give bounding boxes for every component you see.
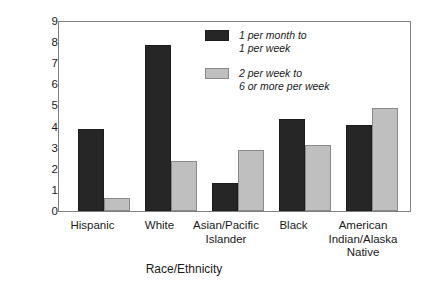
legend-item-series1: 1 per month to 1 per week bbox=[205, 29, 365, 54]
y-tick-label-9: 9 bbox=[12, 16, 58, 28]
legend-swatch-series2 bbox=[205, 68, 229, 79]
bar-white-series2 bbox=[171, 161, 197, 211]
plot-area: 1 per month to 1 per week 2 per week to … bbox=[58, 21, 411, 212]
x-axis-title-wrapper: Race/Ethnicity bbox=[0, 262, 424, 276]
y-tick-label-6: 6 bbox=[12, 79, 58, 91]
bar-white-series1 bbox=[145, 45, 171, 212]
legend-swatch-series1 bbox=[205, 30, 229, 41]
bar-hispanic-series1 bbox=[78, 129, 104, 211]
bar-asian-pacific-islander-series1 bbox=[212, 183, 238, 211]
y-tick-label-1: 1 bbox=[12, 185, 58, 197]
y-tick-label-2: 2 bbox=[12, 164, 58, 176]
y-tick-label-3: 3 bbox=[12, 143, 58, 155]
legend-label-series2: 2 per week to 6 or more per week bbox=[239, 67, 329, 92]
y-tick-label-8: 8 bbox=[12, 37, 58, 49]
x-axis-title: Race/Ethnicity bbox=[146, 262, 223, 276]
y-tick-label-7: 7 bbox=[12, 58, 58, 70]
y-tick-label-5: 5 bbox=[12, 100, 58, 112]
bar-american-indian-alaska-native-series2 bbox=[372, 108, 398, 211]
bar-chart-figure: Weighted Percentage 9 8 7 6 5 4 3 2 1 0 bbox=[0, 0, 424, 290]
legend-label-series1: 1 per month to 1 per week bbox=[239, 29, 307, 54]
bar-black-series2 bbox=[305, 145, 331, 211]
legend-item-series2: 2 per week to 6 or more per week bbox=[205, 67, 365, 92]
x-tick-label-american-indian-alaska-native: American Indian/Alaska Native bbox=[313, 219, 413, 260]
y-axis-ticks: 9 8 7 6 5 4 3 2 1 0 bbox=[0, 0, 58, 290]
bar-hispanic-series2 bbox=[104, 198, 130, 211]
bar-american-indian-alaska-native-series1 bbox=[346, 125, 372, 211]
chart-legend: 1 per month to 1 per week 2 per week to … bbox=[205, 29, 365, 105]
y-tick-label-0: 0 bbox=[12, 206, 58, 218]
y-tick-label-4: 4 bbox=[12, 122, 58, 134]
bar-asian-pacific-islander-series2 bbox=[238, 150, 264, 212]
bar-black-series1 bbox=[279, 119, 305, 211]
